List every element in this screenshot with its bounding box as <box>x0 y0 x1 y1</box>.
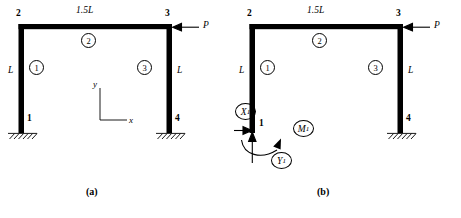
reaction-arrow-y1 <box>249 132 256 163</box>
load-arrow-p <box>173 23 200 31</box>
fixed-support-node-4 <box>387 133 416 139</box>
load-label-p: P <box>434 21 440 31</box>
reaction-subscript-x: 1 <box>247 108 251 116</box>
coordinate-axes <box>100 88 127 120</box>
dimension-label-right: L <box>177 66 182 76</box>
axis-label-x: x <box>129 116 133 125</box>
node-label-3: 3 <box>396 9 401 19</box>
dimension-label-left: L <box>8 66 13 76</box>
member-3-column-right <box>398 24 404 133</box>
member-number-3: 3 <box>368 60 383 75</box>
fixed-support-node-4 <box>156 133 185 139</box>
member-number-2: 2 <box>312 33 327 48</box>
member-number-1: 1 <box>29 60 44 75</box>
reaction-moment-m1 <box>242 140 278 155</box>
panel-caption-b: (b) <box>317 186 329 197</box>
figure-panel-a: 2 3 1 4 1.5L L L 1 2 3 P y x (a) <box>0 0 230 218</box>
figure-root: 2 3 1 4 1.5L L L 1 2 3 P y x (a) <box>0 0 461 218</box>
figure-panel-b: 2 3 1 4 1.5L L L 1 2 3 P X1 M1 Y1 (b) <box>231 0 461 218</box>
reaction-label-m1: M1 <box>293 120 314 137</box>
node-label-4: 4 <box>175 114 180 124</box>
frame-geometry-a <box>0 0 230 218</box>
reaction-label-x1: X1 <box>235 103 256 120</box>
axis-label-y: y <box>93 80 97 89</box>
node-label-1: 1 <box>259 119 264 129</box>
node-label-4: 4 <box>406 114 411 124</box>
panel-caption-a: (a) <box>86 186 98 197</box>
reaction-subscript-y: 1 <box>282 157 286 165</box>
dimension-label-top: 1.5L <box>76 6 93 16</box>
node-label-2: 2 <box>16 9 21 19</box>
fixed-support-node-1 <box>8 133 37 139</box>
node-label-1: 1 <box>27 114 32 124</box>
node-label-3: 3 <box>165 9 170 19</box>
member-1-column-left <box>19 24 25 133</box>
load-label-p: P <box>203 21 209 31</box>
reaction-moment-m1-head <box>273 139 281 150</box>
node-label-2: 2 <box>247 9 252 19</box>
reaction-subscript-m: 1 <box>306 125 310 133</box>
reaction-arrow-x1 <box>234 127 252 135</box>
member-number-3: 3 <box>137 60 152 75</box>
load-arrow-p <box>404 23 431 31</box>
member-3-column-right <box>167 24 173 133</box>
dimension-label-right: L <box>408 66 413 76</box>
member-number-1: 1 <box>260 60 275 75</box>
reaction-symbol-m: M <box>298 124 306 134</box>
member-2-beam-top <box>19 24 172 29</box>
reaction-label-y1: Y1 <box>271 152 292 169</box>
dimension-label-top: 1.5L <box>307 6 324 16</box>
member-number-2: 2 <box>81 33 96 48</box>
dimension-label-left: L <box>239 66 244 76</box>
frame-geometry-b <box>231 0 461 218</box>
member-2-beam-top <box>250 24 403 29</box>
